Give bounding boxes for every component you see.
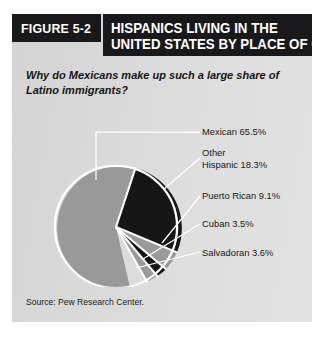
figure-number-label: FIGURE 5-2 [21, 21, 91, 36]
figure-number-block: FIGURE 5-2 [12, 14, 101, 42]
figure-header: FIGURE 5-2 HISPANICS LIVING IN THE UNITE… [12, 14, 312, 56]
callout-label-other-hispanic-line-2: Hispanic 18.3% [202, 159, 267, 171]
pie-chart-area: Mexican 65.5% Other Hispanic 18.3% Puert… [12, 92, 312, 287]
leader-line-other-hispanic [164, 158, 200, 189]
figure-title-block: HISPANICS LIVING IN THE UNITED STATES BY… [103, 14, 312, 56]
figure-title-line-2: UNITED STATES BY PLACE OF ORIGIN [111, 36, 312, 53]
callout-label-puerto-rican: Puerto Rican 9.1% [202, 190, 280, 202]
callout-label-cuban: Cuban 3.5% [202, 218, 254, 230]
callout-label-mexican: Mexican 65.5% [202, 126, 266, 138]
source-note: Source: Pew Research Center. [26, 297, 144, 307]
callout-label-other-hispanic: Other Hispanic 18.3% [202, 147, 267, 170]
figure-panel: FIGURE 5-2 HISPANICS LIVING IN THE UNITE… [12, 14, 312, 322]
callout-label-other-hispanic-line-1: Other [202, 147, 267, 159]
callout-label-salvadoran: Salvadoran 3.6% [202, 247, 273, 259]
figure-title-line-1: HISPANICS LIVING IN THE [111, 20, 312, 37]
